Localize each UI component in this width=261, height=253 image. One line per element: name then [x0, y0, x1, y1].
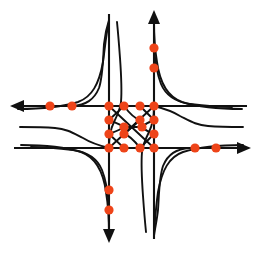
north-arrow-icon [148, 10, 160, 24]
ramp-layer [18, 20, 243, 236]
ramp-se-inner [154, 148, 190, 236]
ramp-ne-outer [154, 20, 242, 109]
node-dot-south-outer-far[interactable] [104, 205, 113, 214]
node-dot-grid-r2c1[interactable] [104, 115, 113, 124]
node-dot-grid-r1c4[interactable] [149, 101, 158, 110]
node-dot-west-outer-far[interactable] [45, 101, 54, 110]
node-dot-grid-r4c3[interactable] [135, 143, 144, 152]
east-arrow-icon [237, 142, 251, 154]
node-dot-north-outer-far[interactable] [149, 43, 158, 52]
node-dot-grid-mid-right[interactable] [137, 122, 146, 131]
ramp-ne-inner [154, 48, 232, 107]
node-dot-grid-r3c2[interactable] [119, 129, 128, 138]
interchange-diagram [0, 0, 261, 253]
node-dot-grid-r3c1[interactable] [104, 129, 113, 138]
node-dot-grid-r3c4[interactable] [149, 129, 158, 138]
node-dot-grid-r1c2[interactable] [119, 101, 128, 110]
ramp-sw-outer [21, 145, 109, 235]
node-dot-east-outer-near[interactable] [190, 143, 199, 152]
node-dot-grid-r4c2[interactable] [119, 143, 128, 152]
node-dot-north-outer-near[interactable] [149, 63, 158, 72]
node-dot-grid-r1c1[interactable] [104, 101, 113, 110]
west-arrow-icon [10, 100, 24, 112]
node-dot-south-outer-near[interactable] [104, 185, 113, 194]
network-svg [0, 0, 261, 253]
node-dot-grid-r4c1[interactable] [104, 143, 113, 152]
node-dot-west-outer-near[interactable] [67, 101, 76, 110]
node-dot-east-outer-far[interactable] [211, 143, 220, 152]
south-arrow-icon [103, 229, 115, 243]
node-dot-grid-r4c4[interactable] [149, 143, 158, 152]
node-dot-grid-r1c3[interactable] [135, 101, 144, 110]
node-dot-grid-r2c4[interactable] [149, 115, 158, 124]
ramp-sw-inner [31, 147, 109, 206]
